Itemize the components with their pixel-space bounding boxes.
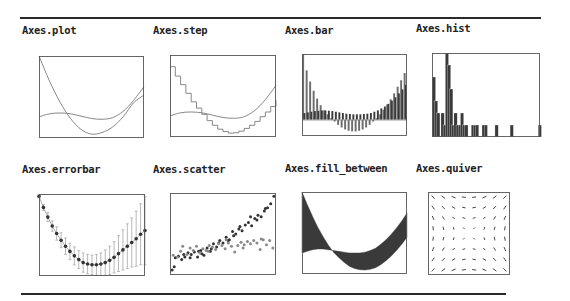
quiver-arrow: [494, 217, 496, 220]
fill-between-axes: [302, 192, 407, 274]
step-axes: [170, 55, 276, 137]
light-point: [246, 240, 249, 243]
dark-bar: [310, 112, 312, 120]
light-point: [255, 242, 258, 245]
data-marker: [99, 262, 103, 266]
quiver-arrow: [443, 227, 444, 230]
quiver-arrow: [483, 207, 486, 209]
light-point: [185, 253, 188, 256]
step1-line: [170, 67, 276, 133]
data-marker: [81, 261, 85, 265]
dark-point: [196, 255, 199, 258]
light-point: [225, 238, 228, 241]
light-point: [172, 254, 175, 257]
plot-axes: [39, 56, 144, 138]
axes-frame: [429, 193, 510, 275]
light-point: [181, 245, 184, 248]
data-marker: [121, 248, 125, 252]
quiver-arrow: [493, 206, 495, 208]
dark-point: [212, 242, 215, 245]
axes-frame: [40, 57, 144, 138]
quiver-arrow: [443, 217, 445, 220]
dark-bar: [394, 97, 396, 119]
dark-point: [244, 223, 247, 226]
dark-bar: [328, 111, 330, 120]
hist-bar: [484, 125, 487, 137]
hist-axes: [432, 53, 540, 137]
dark-bar: [391, 101, 393, 120]
light-bar: [358, 120, 360, 131]
dark-bar: [342, 113, 344, 120]
light-point: [268, 239, 271, 242]
light-point: [220, 244, 223, 247]
dark-point: [241, 229, 244, 232]
light-point: [236, 244, 239, 247]
dark-bar: [363, 114, 365, 120]
quiver-arrow: [473, 249, 475, 250]
light-bar: [341, 120, 343, 128]
panel-title-scatter: Axes.scatter: [153, 163, 225, 175]
quiver-arrow: [484, 217, 486, 219]
light-point: [179, 250, 182, 253]
dark-bar: [314, 111, 316, 120]
light-point: [207, 250, 210, 253]
quiver-arrow: [463, 218, 465, 219]
data-marker: [42, 206, 46, 210]
dark-bar: [401, 89, 403, 119]
quiver-arrow: [484, 227, 485, 229]
dark-bar: [377, 110, 379, 119]
quiver-arrow: [504, 269, 507, 272]
light-point: [259, 248, 262, 251]
light-point: [240, 241, 243, 244]
dark-bar: [373, 112, 375, 120]
quiver-arrow: [483, 196, 486, 197]
data-marker: [103, 261, 107, 265]
quiver-arrow: [432, 258, 434, 261]
dark-point: [190, 253, 193, 256]
data-marker: [95, 263, 99, 267]
light-point: [217, 242, 220, 245]
quiver-arrow: [432, 247, 433, 250]
dark-bar: [335, 112, 337, 120]
dark-bar: [349, 114, 351, 120]
quiver-arrow: [432, 269, 435, 272]
data-marker: [139, 232, 143, 236]
dark-point: [249, 215, 252, 218]
quiver-arrow: [453, 217, 455, 219]
dark-bar: [366, 114, 368, 120]
quiver-arrow: [432, 216, 433, 219]
panel-title-fill-between: Axes.fill_between: [285, 162, 387, 174]
quiver-arrow: [504, 247, 505, 250]
quiver-arrow: [443, 248, 445, 251]
filled-region: [302, 192, 407, 270]
data-marker: [37, 194, 41, 198]
light-point: [224, 247, 227, 250]
dark-point: [238, 225, 241, 228]
scatter-axes: [170, 193, 276, 275]
dark-bar: [370, 113, 372, 120]
light-bar: [351, 120, 353, 132]
light-point: [176, 255, 179, 258]
dark-bar: [324, 110, 326, 119]
dark-bar: [384, 106, 386, 119]
hist-bar: [437, 113, 440, 137]
dark-point: [171, 269, 174, 272]
bar-axes: [302, 54, 407, 136]
light-point: [192, 249, 195, 252]
data-marker: [143, 229, 147, 233]
quiver-arrow: [442, 206, 444, 208]
light-point: [243, 243, 246, 246]
dark-point: [231, 230, 234, 233]
dark-bar: [321, 110, 323, 119]
panel-title-bar: Axes.bar: [285, 24, 333, 36]
dark-point: [260, 215, 263, 218]
quiver-axes: [428, 192, 510, 275]
bottom-rule: [21, 293, 506, 295]
hist-bar: [510, 125, 513, 137]
quiver-arrow: [494, 237, 495, 240]
quiver-arrow: [463, 249, 465, 250]
quiver-arrow: [442, 196, 445, 198]
quiver-arrow: [494, 248, 496, 251]
light-point: [198, 251, 201, 254]
data-marker: [55, 232, 59, 236]
